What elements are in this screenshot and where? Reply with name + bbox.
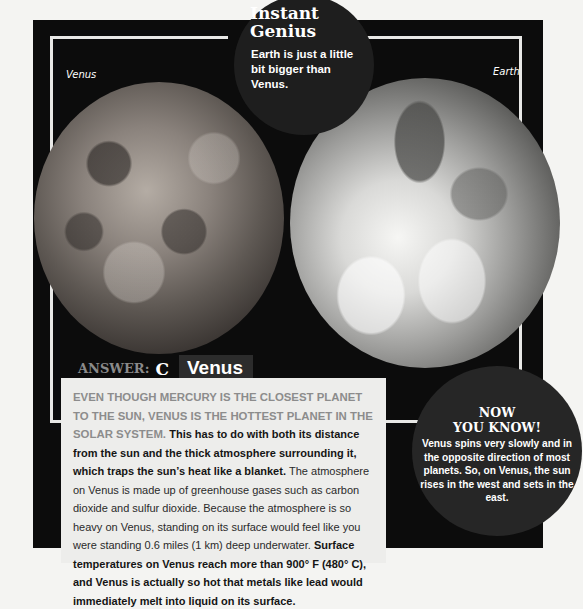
answer-letter: C	[155, 359, 169, 379]
earth-label: Earth	[493, 66, 520, 77]
now-you-know-body: Venus spins very slowly and in the oppos…	[420, 437, 574, 505]
know-title-line2: YOU KNOW!	[412, 420, 582, 435]
genius-title-line2: Genius	[250, 22, 360, 40]
now-you-know-title: NOW YOU KNOW!	[412, 405, 582, 435]
know-title-line1: NOW	[412, 405, 582, 420]
genius-title-line1: Instant	[250, 4, 360, 22]
venus-image	[34, 82, 284, 354]
venus-label: Venus	[66, 69, 96, 80]
instant-genius-title: Instant Genius	[250, 4, 360, 40]
article-text-box: Even though Mercury is the closest plane…	[61, 378, 386, 563]
answer-prefix: ANSWER:	[78, 361, 149, 376]
instant-genius-body: Earth is just a little bit bigger than V…	[251, 47, 356, 92]
